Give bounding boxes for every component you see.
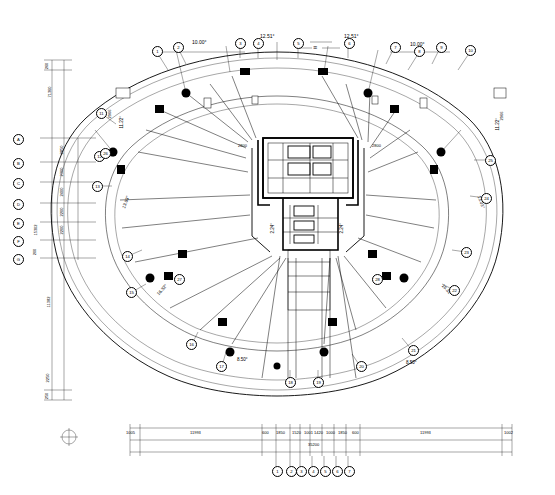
north-symbol bbox=[60, 428, 78, 446]
top-dim-0: 10.00° bbox=[192, 40, 207, 45]
floor-plan-vector: .th{stroke:#000;stroke-width:0.5;fill:no… bbox=[0, 0, 555, 495]
perimeter-bubble-22[interactable]: 22 bbox=[449, 285, 460, 296]
left-small-0: 260 bbox=[45, 63, 49, 70]
top-leaders bbox=[95, 42, 461, 152]
drawing-canvas: .th{stroke:#000;stroke-width:0.5;fill:no… bbox=[0, 0, 555, 495]
bottom-seg-5: 1420 bbox=[314, 431, 323, 435]
perimeter-bubble-9[interactable]: 9 bbox=[436, 42, 447, 53]
inner-label-2: 2966 bbox=[500, 112, 504, 121]
angle-label-5: 8.50° bbox=[406, 361, 417, 366]
perimeter-bubble-6[interactable]: 6 bbox=[344, 38, 355, 49]
inner-label-3: 2966 bbox=[108, 110, 112, 119]
perimeter-bubble-27[interactable]: 27 bbox=[174, 274, 185, 285]
perimeter-bubble-1[interactable]: 1 bbox=[152, 46, 163, 57]
perimeter-bubble-18[interactable]: 18 bbox=[285, 377, 296, 388]
grid-bubble-left-C[interactable]: C bbox=[13, 178, 24, 189]
perimeter-bubble-13[interactable]: 13 bbox=[92, 181, 103, 192]
perimeter-columns bbox=[109, 68, 446, 370]
left-small-1: 200 bbox=[33, 249, 37, 256]
bottom-seg-2: 1850 bbox=[276, 431, 285, 435]
grid-bubble-left-G[interactable]: G bbox=[13, 254, 24, 265]
grid-bubble-left-B[interactable]: B bbox=[13, 158, 24, 169]
angle-label-4: 8.50° bbox=[237, 358, 248, 363]
perimeter-bubble-17[interactable]: 17 bbox=[216, 361, 227, 372]
top-dim-1: 12.51° bbox=[260, 34, 275, 39]
bottom-total: 35200 bbox=[308, 443, 319, 447]
left-dimension-chain bbox=[40, 60, 96, 400]
grid-bubble-bottom-4[interactable]: 4 bbox=[308, 466, 319, 477]
bottom-edge-left: 1005 bbox=[126, 431, 135, 435]
building-core bbox=[252, 138, 364, 252]
left-total-2: 11382 bbox=[47, 297, 51, 308]
perimeter-bubble-20[interactable]: 20 bbox=[356, 361, 367, 372]
inner-structural-ring bbox=[105, 96, 448, 351]
bottom-seg-3: 1520 bbox=[292, 431, 301, 435]
inner-label-0: 2800 bbox=[238, 144, 247, 148]
inner-label-1: 2800 bbox=[372, 144, 381, 148]
angle-label-6: 11.22° bbox=[120, 116, 125, 129]
grid-bubble-left-F[interactable]: F bbox=[13, 236, 24, 247]
grid-bubble-bottom-5[interactable]: 5 bbox=[320, 466, 331, 477]
left-val-2: 2400 bbox=[60, 188, 64, 197]
perimeter-bubble-24[interactable]: 24 bbox=[481, 193, 492, 204]
perimeter-bubble-28[interactable]: 28 bbox=[372, 274, 383, 285]
legend-mark: ≡ bbox=[313, 44, 317, 51]
grid-bubble-left-D[interactable]: D bbox=[13, 199, 24, 210]
perimeter-bubble-19[interactable]: 19 bbox=[313, 377, 324, 388]
perimeter-bubble-8[interactable]: 8 bbox=[414, 46, 425, 57]
left-val-5: 2250 bbox=[46, 374, 50, 383]
left-val-1: 2300 bbox=[60, 168, 64, 177]
bottom-seg-9: 11993 bbox=[420, 431, 431, 435]
left-small-2: 250 bbox=[45, 393, 49, 400]
angle-label-8: 2.24° bbox=[271, 223, 276, 234]
perimeter-bubble-4[interactable]: 4 bbox=[253, 38, 264, 49]
left-val-4: 2200 bbox=[60, 226, 64, 235]
bottom-seg-0: 11993 bbox=[190, 431, 201, 435]
perimeter-bubble-26[interactable]: 26 bbox=[100, 148, 111, 159]
perimeter-bubble-10[interactable]: 10 bbox=[465, 45, 476, 56]
perimeter-bubble-21[interactable]: 21 bbox=[408, 345, 419, 356]
angle-label-9: 2.24° bbox=[340, 223, 345, 234]
grid-bubble-bottom-6[interactable]: 6 bbox=[332, 466, 343, 477]
perimeter-bubble-3[interactable]: 3 bbox=[235, 38, 246, 49]
grid-bubble-left-E[interactable]: E bbox=[13, 218, 24, 229]
bottom-seg-1: 600 bbox=[262, 431, 269, 435]
bottom-edge-right: 1002 bbox=[504, 431, 513, 435]
bottom-seg-7: 1850 bbox=[338, 431, 347, 435]
left-total-1: 15302 bbox=[34, 224, 38, 235]
perimeter-bubble-2[interactable]: 2 bbox=[173, 42, 184, 53]
left-total-0: 71360 bbox=[48, 86, 52, 97]
left-val-0: 2850 bbox=[60, 146, 64, 155]
perimeter-bubble-11[interactable]: 11 bbox=[96, 108, 107, 119]
bottom-seg-6: 1000 bbox=[326, 431, 335, 435]
outer-envelope bbox=[51, 52, 503, 396]
grid-bubble-bottom-7[interactable]: 7 bbox=[344, 466, 355, 477]
grid-bubble-left-A[interactable]: A bbox=[13, 134, 24, 145]
perimeter-bubble-7[interactable]: 7 bbox=[390, 42, 401, 53]
perimeter-bubble-5[interactable]: 5 bbox=[293, 38, 304, 49]
perimeter-bubble-25[interactable]: 25 bbox=[485, 155, 496, 166]
bottom-seg-8: 600 bbox=[352, 431, 359, 435]
left-val-3: 2200 bbox=[60, 208, 64, 217]
grid-bubble-bottom-1[interactable]: 1 bbox=[272, 466, 283, 477]
perimeter-bubble-23[interactable]: 23 bbox=[461, 247, 472, 258]
perimeter-bubble-16[interactable]: 16 bbox=[186, 339, 197, 350]
perimeter-bubble-14[interactable]: 14 bbox=[122, 251, 133, 262]
perimeter-bubble-15[interactable]: 15 bbox=[126, 287, 137, 298]
bottom-seg-4: 1001 bbox=[304, 431, 313, 435]
grid-bubble-bottom-3[interactable]: 3 bbox=[296, 466, 307, 477]
